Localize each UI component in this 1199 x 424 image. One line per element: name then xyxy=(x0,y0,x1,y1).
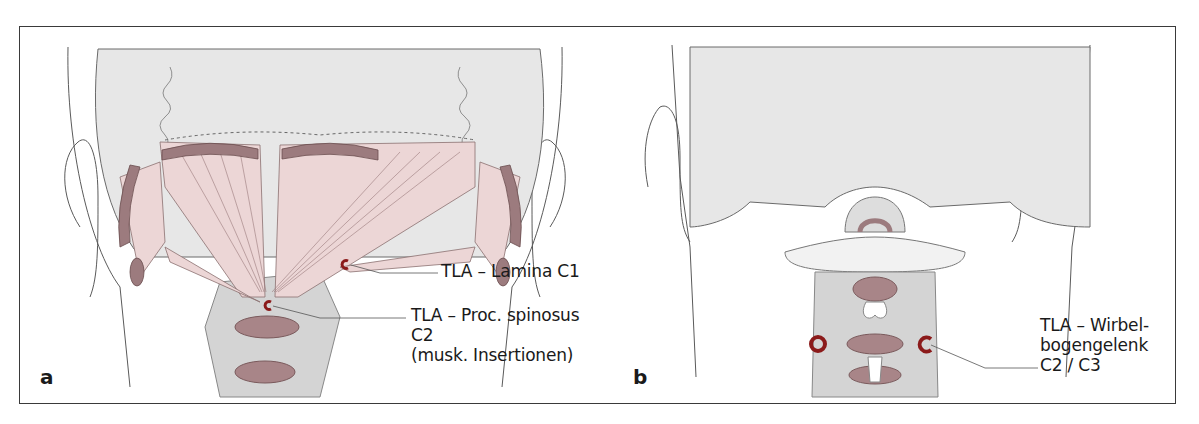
label-proc-spinosus-c2: TLA – Proc. spinosus C2 (musk. Insertion… xyxy=(411,305,579,365)
skull xyxy=(690,47,1090,227)
cervical-spine xyxy=(205,272,340,397)
label-wirbelbogengelenk: TLA – Wirbel- bogengelenk C2 / C3 xyxy=(1040,315,1149,375)
label-lamina-c1: TLA – Lamina C1 xyxy=(441,261,580,281)
figure-frame: TLA – Lamina C1 TLA – Proc. spinosus C2 … xyxy=(19,26,1176,404)
label-line: C2 / C3 xyxy=(1040,355,1149,375)
cervical-vertebrae xyxy=(812,272,938,397)
panel-letter-a: a xyxy=(40,365,54,389)
left-ear xyxy=(65,140,98,297)
left-ear xyxy=(645,106,690,242)
label-line: bogengelenk xyxy=(1040,335,1149,355)
atlas-c1 xyxy=(785,237,965,272)
label-line: C2 xyxy=(411,325,579,345)
panel-b: TLA – Wirbel- bogengelenk C2 / C3 b xyxy=(620,27,1177,403)
leader-line-wirbelbogengelenk xyxy=(931,345,1038,368)
panel-letter-b: b xyxy=(633,365,647,389)
label-line: (musk. Insertionen) xyxy=(411,345,579,365)
label-line: TLA – Lamina C1 xyxy=(441,261,580,281)
label-line: TLA – Proc. spinosus xyxy=(411,305,579,325)
panel-a: TLA – Lamina C1 TLA – Proc. spinosus C2 … xyxy=(20,27,620,403)
label-line: TLA – Wirbel- xyxy=(1040,315,1149,335)
